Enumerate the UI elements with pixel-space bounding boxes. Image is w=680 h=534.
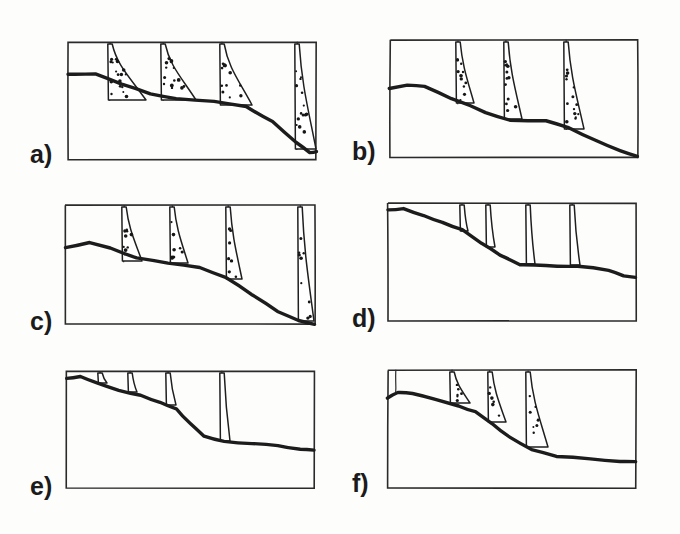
stipple-dot: [163, 83, 165, 85]
stipple-dot: [221, 84, 224, 87]
stipple-dot: [120, 73, 123, 76]
stipple-dot: [456, 394, 458, 396]
stipple-dot: [125, 95, 129, 99]
stipple-dot: [489, 386, 491, 388]
stipple-dot: [296, 124, 298, 126]
stipple-dot: [529, 395, 531, 397]
stipple-dot: [299, 237, 302, 240]
stipple-dot: [297, 117, 300, 120]
stipple-dot: [300, 112, 303, 115]
stipple-dot: [566, 102, 569, 105]
stipple-dot: [460, 392, 463, 395]
stipple-dot: [172, 233, 176, 237]
wedge-outline: [298, 207, 314, 321]
stipple-dot: [456, 58, 459, 61]
panel-label: f): [352, 469, 369, 497]
stipple-dot: [514, 105, 518, 109]
stipple-dot: [490, 396, 494, 400]
stipple-dot: [239, 94, 242, 97]
colluvial-wedge: [486, 205, 495, 247]
stipple-dot: [225, 84, 228, 87]
colluvial-wedge: [564, 42, 584, 129]
stipple-dot: [110, 93, 112, 95]
panel-label: c): [30, 307, 52, 335]
stipple-dot: [573, 108, 575, 110]
panel-label: e): [30, 472, 52, 500]
stipple-dot: [170, 221, 172, 223]
stipple-dot: [464, 82, 467, 85]
colluvial-wedge: [161, 44, 196, 100]
panel-label: b): [352, 137, 376, 165]
slope-profile-figure: a)b)c)d)e)f): [0, 0, 680, 534]
stipple-dot: [170, 84, 174, 88]
stipple-dot: [571, 95, 574, 98]
stipple-dot: [179, 247, 182, 250]
stipple-dot: [505, 70, 508, 73]
stipple-dot: [461, 75, 463, 77]
wedge-outline: [504, 42, 522, 119]
stipple-dot: [575, 116, 577, 118]
stipple-dot: [504, 83, 507, 86]
wedge-outline: [460, 205, 468, 231]
stipple-dot: [181, 250, 184, 253]
stipple-dot: [123, 246, 125, 248]
panel-e: [66, 371, 315, 489]
stipple-dot: [123, 229, 126, 232]
stipple-dot: [109, 60, 112, 63]
stipple-dot: [223, 64, 226, 67]
wedge-outline: [128, 373, 137, 392]
stipple-dot: [305, 113, 309, 117]
colluvial-wedge: [460, 205, 468, 231]
wedge-outline: [526, 205, 535, 264]
panel-d: [388, 203, 637, 321]
slope-profile-line: [66, 243, 315, 325]
colluvial-wedge: [226, 207, 242, 279]
slope-profile-line: [67, 376, 314, 450]
stipple-dot: [228, 227, 231, 230]
colluvial-wedge: [298, 207, 314, 321]
colluvial-wedge: [98, 373, 107, 383]
stipple-dot: [573, 86, 575, 88]
stipple-dot: [177, 78, 181, 82]
stipple-dot: [303, 252, 305, 254]
stipple-dot: [488, 392, 491, 395]
stipple-dot: [456, 399, 459, 402]
stipple-dot: [504, 60, 507, 63]
stipple-dot: [566, 68, 569, 71]
stipple-dot: [221, 67, 224, 70]
stipple-dot: [239, 84, 241, 86]
stipple-dot: [456, 384, 458, 386]
stipple-dot: [498, 414, 500, 416]
stipple-dot: [505, 103, 508, 106]
colluvial-wedge: [504, 42, 522, 119]
wedge-outline: [486, 205, 495, 247]
stipple-dot: [535, 424, 538, 427]
stipple-dot: [122, 91, 124, 93]
stipple-dot: [221, 91, 224, 94]
stipple-dot: [298, 252, 301, 255]
stipple-dot: [575, 103, 578, 106]
stipple-dot: [533, 432, 535, 434]
stipple-dot: [228, 241, 231, 244]
stipple-dot: [457, 70, 460, 73]
stipple-dot: [506, 109, 509, 112]
wedge-outline: [166, 373, 176, 405]
wedge-outline: [220, 44, 252, 105]
stipple-dot: [460, 63, 462, 65]
stipple-dot: [163, 76, 166, 79]
stipple-dot: [165, 61, 169, 65]
stipple-dot: [173, 79, 176, 82]
panel-label: a): [30, 140, 52, 168]
stipple-dot: [127, 246, 129, 248]
stipple-dot: [457, 388, 460, 391]
wedge-outline: [564, 42, 584, 129]
colluvial-wedge: [488, 372, 507, 422]
stipple-dot: [227, 257, 230, 260]
stipple-dot: [301, 92, 304, 95]
panel-frame: [66, 371, 315, 489]
stipple-dot: [298, 125, 302, 129]
stipple-dot: [309, 315, 312, 318]
stipple-dot: [491, 403, 495, 407]
wedge-outline: [526, 372, 548, 447]
colluvial-wedge: [526, 372, 548, 447]
